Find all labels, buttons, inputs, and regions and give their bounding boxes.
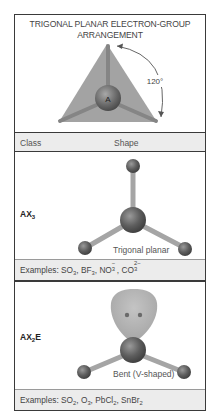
class-label-ax3: AX3 xyxy=(20,209,35,220)
shape-name-trigonal-planar: Trigonal planar xyxy=(113,245,169,255)
examples-row-ax2e: Examples: SO2, O3, PbCl2, SnBr2 xyxy=(15,389,205,410)
trigonal-planar-arrangement-icon: A 120° xyxy=(59,44,165,123)
header-class: Class xyxy=(20,138,41,148)
bent-molecule-icon xyxy=(77,289,191,379)
shape-name-bent: Bent (V-shaped) xyxy=(113,369,174,379)
example-formula: SO3 xyxy=(61,265,76,275)
svg-text:A: A xyxy=(105,95,111,104)
example-formula: SnBr2 xyxy=(121,395,143,405)
diagram-title: TRIGONAL PLANAR ELECTRON-GROUP ARRANGEME… xyxy=(15,19,205,40)
example-formula: NO−3 xyxy=(99,265,116,275)
row-separator xyxy=(15,280,205,282)
svg-text:120°: 120° xyxy=(147,77,164,86)
vsepr-table: TRIGONAL PLANAR ELECTRON-GROUP ARRANGEME… xyxy=(14,14,206,411)
examples-row-ax3: Examples: SO3, BF3, NO−3, CO2−3 xyxy=(15,259,205,280)
example-formula: BF3 xyxy=(81,265,95,275)
example-formula: PbCl2 xyxy=(95,395,116,405)
header-shape: Shape xyxy=(114,138,139,148)
table-header-row: Class Shape xyxy=(15,132,205,152)
example-formula: O3 xyxy=(81,395,91,405)
example-formula: SO2 xyxy=(61,395,76,405)
example-formula: CO2−3 xyxy=(121,265,141,275)
trigonal-planar-molecule-icon xyxy=(78,159,192,256)
title-line-2: ARRANGEMENT xyxy=(15,30,205,41)
class-label-ax2e: AX2E xyxy=(20,332,41,343)
title-line-1: TRIGONAL PLANAR ELECTRON-GROUP xyxy=(15,19,205,30)
